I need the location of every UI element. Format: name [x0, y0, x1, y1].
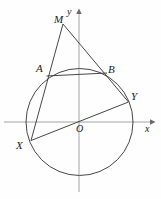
y-axis-arrow [76, 9, 81, 15]
point-label-M: M [54, 14, 63, 25]
x-axis-arrow [150, 119, 156, 125]
y-axis-label: y [67, 7, 71, 17]
chord-X-Y [31, 102, 129, 141]
point-label-Y: Y [131, 91, 137, 102]
segment-M-X [31, 24, 63, 141]
segment-M-Y [63, 24, 129, 102]
geometry-figure: M A B Y X O x y [0, 0, 161, 199]
point-label-A: A [36, 63, 43, 74]
origin-label: O [76, 124, 83, 134]
x-axis-label: x [145, 124, 149, 134]
y-axis [76, 9, 81, 193]
point-label-X: X [16, 140, 23, 151]
point-label-B: B [108, 64, 115, 75]
